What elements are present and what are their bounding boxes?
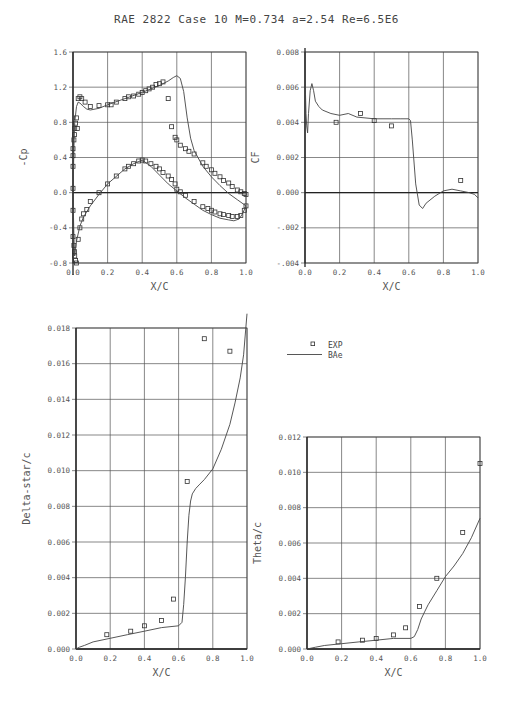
x-tick-label: 0.2 xyxy=(333,268,347,277)
y-tick-label: 0.012 xyxy=(278,433,301,442)
y-tick-label: 0.010 xyxy=(47,466,70,475)
y-tick-label: 0.004 xyxy=(47,573,70,582)
theta-plot: 0.00.20.40.60.81.00.0000.0020.0040.0060.… xyxy=(252,433,487,679)
y-tick-label: 0.4 xyxy=(53,153,67,162)
y-tick-label: 0.002 xyxy=(47,609,70,618)
exp-data-point xyxy=(392,633,396,637)
cp-plot: 0.00.20.40.60.81.0-0.8-0.40.00.40.81.21.… xyxy=(18,48,253,293)
delta-star-plot: 0.00.20.40.60.81.00.0000.0020.0040.0060.… xyxy=(21,314,254,678)
cf-plot: 0.00.20.40.60.81.0-.004-.0020.0000.0020.… xyxy=(250,48,485,293)
x-axis-label: X/C xyxy=(150,281,168,292)
exp-data-point xyxy=(390,124,394,128)
x-tick-label: 0.8 xyxy=(437,268,451,277)
exp-data-point xyxy=(105,633,109,637)
y-tick-label: 0.016 xyxy=(47,359,70,368)
x-tick-label: 0.2 xyxy=(103,654,117,663)
exp-data-point xyxy=(88,105,92,109)
y-axis-label: -Cp xyxy=(18,148,29,166)
x-tick-label: 0.4 xyxy=(138,654,152,663)
y-tick-label: -.004 xyxy=(276,259,299,268)
legend-exp-marker-icon xyxy=(311,342,315,346)
exp-data-point xyxy=(75,127,79,131)
x-tick-label: 0.6 xyxy=(170,268,184,277)
y-tick-label: 0.0 xyxy=(53,188,67,197)
x-tick-label: 0.0 xyxy=(69,654,83,663)
model-curve xyxy=(307,518,480,649)
exp-data-point xyxy=(185,479,189,483)
exp-data-point xyxy=(178,143,182,147)
exp-data-point xyxy=(358,112,362,116)
exp-data-point xyxy=(459,178,463,182)
x-axis-label: X/C xyxy=(152,667,170,678)
y-axis-label: CF xyxy=(250,151,261,163)
legend-exp-label: EXP xyxy=(328,341,343,350)
exp-data-point xyxy=(202,337,206,341)
y-axis-label: Delta-star/c xyxy=(21,452,32,524)
y-axis-label: Theta/c xyxy=(252,522,263,564)
exp-data-point xyxy=(404,626,408,630)
y-tick-label: 0.008 xyxy=(278,503,301,512)
x-tick-label: 0.0 xyxy=(298,268,312,277)
y-tick-label: 0.008 xyxy=(276,48,299,57)
y-tick-label: 1.2 xyxy=(53,83,67,92)
exp-data-point xyxy=(172,597,176,601)
exp-data-point xyxy=(97,104,101,108)
y-tick-label: 0.000 xyxy=(276,188,299,197)
exp-data-point xyxy=(129,629,133,633)
y-tick-label: 0.006 xyxy=(276,83,299,92)
y-tick-label: 0.004 xyxy=(278,574,301,583)
x-tick-label: 0.2 xyxy=(101,268,115,277)
exp-data-point xyxy=(88,200,92,204)
x-tick-label: 0.4 xyxy=(135,268,149,277)
x-tick-label: 0.2 xyxy=(335,654,349,663)
exp-data-point xyxy=(228,349,232,353)
y-tick-label: -0.4 xyxy=(49,223,68,232)
x-tick-label: 1.0 xyxy=(473,654,487,663)
legend: EXP BAe xyxy=(287,341,343,360)
y-tick-label: 0.012 xyxy=(47,431,70,440)
model-curve xyxy=(73,76,246,206)
x-axis-label: X/C xyxy=(384,667,402,678)
exp-data-point xyxy=(166,97,170,101)
x-tick-label: 0.8 xyxy=(205,268,219,277)
y-tick-label: 0.006 xyxy=(47,538,70,547)
exp-data-point xyxy=(336,640,340,644)
y-tick-label: -.002 xyxy=(276,223,299,232)
x-tick-label: 0.4 xyxy=(369,654,383,663)
y-tick-label: 0.002 xyxy=(276,153,299,162)
exp-data-point xyxy=(201,205,205,209)
exp-data-point xyxy=(417,605,421,609)
x-tick-label: 1.0 xyxy=(471,268,485,277)
y-tick-label: 0.000 xyxy=(47,645,70,654)
y-tick-label: 0.006 xyxy=(278,539,301,548)
y-tick-label: 0.008 xyxy=(47,502,70,511)
x-tick-label: 0.6 xyxy=(172,654,186,663)
x-tick-label: 0.6 xyxy=(404,654,418,663)
x-axis-label: X/C xyxy=(382,281,400,292)
figure-canvas: 0.00.20.40.60.81.0-0.8-0.40.00.40.81.21.… xyxy=(0,0,513,714)
y-tick-label: -0.8 xyxy=(49,259,68,268)
y-tick-label: 0.004 xyxy=(276,118,299,127)
x-tick-label: 0.8 xyxy=(439,654,453,663)
x-tick-label: 1.0 xyxy=(239,268,253,277)
plot-frame xyxy=(76,328,247,649)
y-tick-label: 1.6 xyxy=(53,48,67,57)
x-tick-label: 0.0 xyxy=(300,654,314,663)
y-tick-label: 0.000 xyxy=(278,645,301,654)
y-tick-label: 0.014 xyxy=(47,395,70,404)
x-tick-label: 0.8 xyxy=(206,654,220,663)
model-curve xyxy=(305,52,478,209)
exp-data-point xyxy=(170,125,174,129)
x-tick-label: 0.6 xyxy=(402,268,416,277)
y-tick-label: 0.8 xyxy=(53,118,67,127)
legend-model-label: BAe xyxy=(328,351,343,360)
y-tick-label: 0.018 xyxy=(47,324,70,333)
exp-data-point xyxy=(461,530,465,534)
y-tick-label: 0.010 xyxy=(278,468,301,477)
x-tick-label: 1.0 xyxy=(240,654,254,663)
exp-data-point xyxy=(160,619,164,623)
x-tick-label: 0.4 xyxy=(367,268,381,277)
y-tick-label: 0.002 xyxy=(278,609,301,618)
